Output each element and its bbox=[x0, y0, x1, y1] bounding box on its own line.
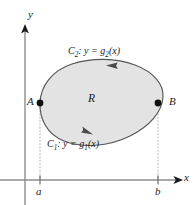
curve-label-c2-symbol: C bbox=[68, 45, 75, 56]
curve-label-c2-fn-index: 2 bbox=[105, 51, 109, 59]
point-marker-a bbox=[37, 100, 44, 107]
region-blob bbox=[40, 59, 163, 145]
curve-label-c2-index: 2 bbox=[75, 51, 79, 59]
region-label: R bbox=[88, 93, 95, 105]
point-label-b: B bbox=[169, 96, 176, 107]
curve-label-c1-equation: : y = g bbox=[57, 138, 84, 149]
curve-label-c2-arg: (x) bbox=[109, 45, 120, 56]
point-label-a: A bbox=[27, 96, 34, 107]
curve-label-c1: C1: y = g1(x) bbox=[47, 139, 99, 149]
greens-theorem-figure: y x a b A B R C2: y = g2(x) C1: y = g1(x… bbox=[0, 0, 195, 205]
point-marker-b bbox=[155, 100, 162, 107]
curve-label-c2-equation: : y = g bbox=[78, 45, 105, 56]
tick-label-a: a bbox=[36, 186, 42, 197]
curve-label-c1-symbol: C bbox=[47, 138, 54, 149]
y-axis-label: y bbox=[28, 9, 33, 20]
curve-label-c1-index: 1 bbox=[54, 144, 58, 152]
curve-label-c1-fn-index: 1 bbox=[84, 144, 88, 152]
curve-label-c2: C2: y = g2(x) bbox=[68, 46, 120, 56]
x-axis-label: x bbox=[184, 172, 189, 183]
curve-label-c1-arg: (x) bbox=[88, 138, 99, 149]
tick-label-b: b bbox=[155, 186, 161, 197]
